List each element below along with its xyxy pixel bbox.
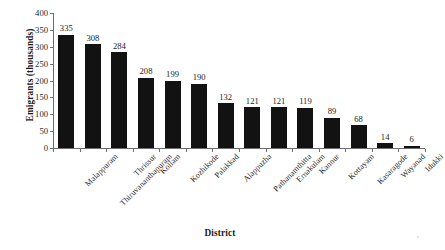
bar — [218, 103, 234, 148]
bar-group: 68 — [345, 13, 372, 148]
y-axis-tick-label: 250 — [22, 59, 48, 69]
bar-group: 14 — [372, 13, 399, 148]
bar-group: 89 — [319, 13, 346, 148]
y-axis-tick-label: 150 — [22, 92, 48, 102]
bar-group: 308 — [80, 13, 107, 148]
bar-value-label: 208 — [140, 66, 153, 76]
y-axis-tick-label: 100 — [22, 109, 48, 119]
x-axis-category-labels: MalappuramThiruvananthapuramThrissurKoll… — [53, 152, 425, 214]
bar — [85, 44, 101, 148]
y-axis-tick-label: 200 — [22, 76, 48, 86]
bar-value-label: 335 — [60, 23, 73, 33]
bar — [377, 143, 393, 148]
bar-group: 6 — [398, 13, 425, 148]
bar-value-label: 132 — [219, 92, 232, 102]
bar-group: 284 — [106, 13, 133, 148]
bar-value-label: 308 — [86, 33, 99, 43]
bar — [271, 107, 287, 148]
bar-value-label: 6 — [410, 134, 414, 144]
bar-value-label: 68 — [354, 114, 363, 124]
x-axis-tick-mark — [425, 149, 426, 152]
bar — [244, 107, 260, 148]
bar-value-label: 121 — [246, 96, 259, 106]
bar-group: 190 — [186, 13, 213, 148]
x-axis-category-label: Malappuram — [84, 152, 120, 188]
bar-value-label: 190 — [193, 72, 206, 82]
bar — [165, 81, 181, 148]
bar-value-label: 199 — [166, 69, 179, 79]
bar — [138, 78, 154, 148]
x-axis-category-label: Idukki — [423, 152, 445, 174]
bar-group: 208 — [133, 13, 160, 148]
bar — [297, 108, 313, 148]
plot-area: 3353082842081991901321211211198968146 — [53, 13, 425, 148]
bar-value-label: 284 — [113, 41, 126, 51]
bar-group: 121 — [239, 13, 266, 148]
bar — [351, 125, 367, 148]
bar-value-label: 119 — [299, 96, 312, 106]
x-axis-category-label: Alappuzha — [241, 152, 273, 184]
bar-group: 119 — [292, 13, 319, 148]
y-axis-tick-label: 0 — [22, 143, 48, 153]
bar-value-label: 121 — [272, 96, 285, 106]
bar — [58, 35, 74, 148]
x-axis-category-label: Kozhikode — [188, 152, 220, 184]
y-axis-tick-label: 400 — [22, 8, 48, 18]
bar-group: 335 — [53, 13, 80, 148]
bar-group: 199 — [159, 13, 186, 148]
y-axis-tick-label: 50 — [22, 126, 48, 136]
bar — [404, 146, 420, 148]
y-axis-tick-label: 300 — [22, 42, 48, 52]
bar-group: 121 — [266, 13, 293, 148]
bar — [111, 52, 127, 148]
y-axis-tick-labels: 050100150200250300350400 — [22, 0, 48, 250]
x-axis-category-label: Kottayam — [347, 152, 376, 181]
y-axis-tick-label: 350 — [22, 25, 48, 35]
bar — [324, 118, 340, 148]
bar-group: 132 — [212, 13, 239, 148]
bar-value-label: 89 — [328, 106, 337, 116]
page-speck — [417, 236, 419, 238]
bar-value-label: 14 — [381, 132, 390, 142]
x-axis-title: District — [0, 228, 440, 238]
bar — [191, 84, 207, 148]
